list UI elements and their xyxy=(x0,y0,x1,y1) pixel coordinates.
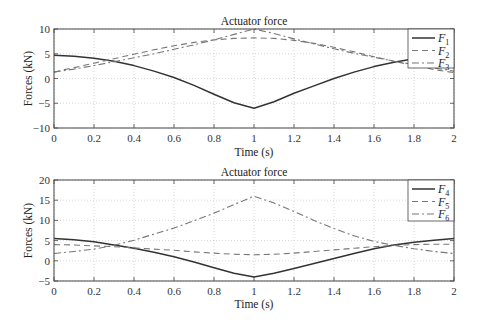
x-tick-label: 1.8 xyxy=(407,132,421,144)
y-tick-label: 0 xyxy=(45,255,51,267)
y-tick-label: 0 xyxy=(45,73,51,85)
y-axis-label: Forces (kN) xyxy=(22,51,35,106)
chart-title: Actuator force xyxy=(221,15,288,27)
x-tick-label: 2 xyxy=(451,285,457,297)
x-tick-label: 1 xyxy=(251,285,257,297)
x-tick-label: 1.8 xyxy=(407,285,421,297)
y-tick-label: 10 xyxy=(39,214,51,226)
x-tick-label: 1.6 xyxy=(367,132,381,144)
x-tick-label: 0.6 xyxy=(167,132,181,144)
x-tick-label: 0.4 xyxy=(127,285,141,297)
x-tick-label: 2 xyxy=(451,132,457,144)
y-tick-label: 5 xyxy=(45,235,51,247)
x-axis-label: Time (s) xyxy=(235,298,274,311)
top-plot: 00.20.40.60.811.21.41.61.821050−5−10Actu… xyxy=(22,15,457,159)
x-tick-label: 0.2 xyxy=(87,132,101,144)
x-tick-label: 0.8 xyxy=(207,285,221,297)
x-axis-label: Time (s) xyxy=(235,146,274,159)
x-tick-label: 0.4 xyxy=(127,132,141,144)
x-tick-label: 1 xyxy=(251,132,257,144)
x-tick-label: 1.4 xyxy=(327,285,341,297)
y-tick-label: 10 xyxy=(39,23,51,35)
bottom-plot: 00.20.40.60.811.21.41.61.8220151050−5Act… xyxy=(22,166,457,311)
y-tick-label: 15 xyxy=(39,194,51,206)
x-tick-label: 0 xyxy=(51,285,57,297)
x-tick-label: 0.2 xyxy=(87,285,101,297)
y-axis-label: Forces (kN) xyxy=(22,203,35,258)
x-tick-label: 0 xyxy=(51,132,57,144)
y-tick-label: 5 xyxy=(45,48,51,60)
x-tick-label: 1.2 xyxy=(287,285,301,297)
y-tick-label: −10 xyxy=(33,122,51,134)
x-tick-label: 0.6 xyxy=(167,285,181,297)
chart-title: Actuator force xyxy=(221,166,288,178)
x-tick-label: 1.6 xyxy=(367,285,381,297)
y-tick-label: −5 xyxy=(38,275,50,287)
legend: F4F5F6 xyxy=(408,180,454,223)
x-tick-label: 0.8 xyxy=(207,132,221,144)
x-tick-label: 1.4 xyxy=(327,132,341,144)
actuator-force-figure: 00.20.40.60.811.21.41.61.821050−5−10Actu… xyxy=(0,0,477,323)
x-tick-label: 1.2 xyxy=(287,132,301,144)
legend: F1F2F3 xyxy=(408,29,454,72)
y-tick-label: 20 xyxy=(39,174,51,186)
y-tick-label: −5 xyxy=(38,97,50,109)
